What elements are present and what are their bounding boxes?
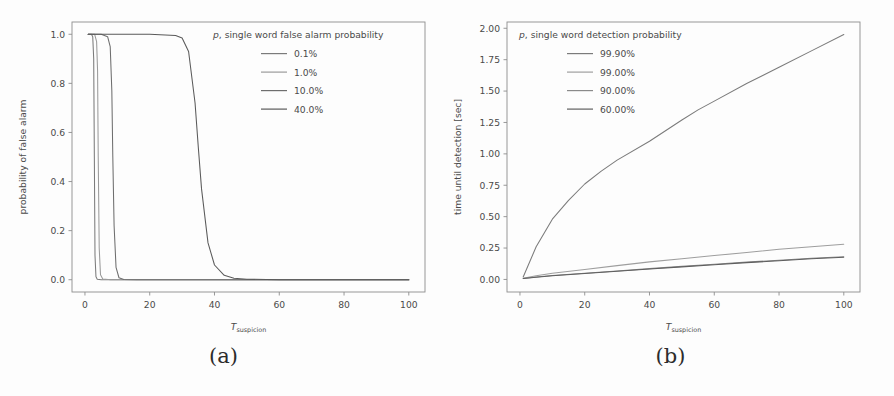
caption-a: (a) — [0, 344, 447, 368]
panel-b-chart: 0204060801000.000.250.500.751.001.251.50… — [447, 0, 894, 340]
legend-entry-label: 0.1% — [294, 48, 318, 59]
y-tick-label: 0.00 — [480, 274, 501, 285]
data-series-line — [523, 257, 844, 278]
x-tick-label: 100 — [835, 299, 853, 310]
y-tick-label: 2.00 — [480, 23, 501, 34]
y-tick-label: 0.2 — [50, 225, 65, 236]
data-series-line — [88, 34, 409, 279]
plot-frame — [507, 22, 860, 292]
panel-b-svg: 0204060801000.000.250.500.751.001.251.50… — [447, 0, 894, 340]
data-series-line — [523, 244, 844, 278]
legend-entry-label: 99.00% — [600, 67, 635, 78]
y-tick-label: 0.6 — [50, 127, 65, 138]
legend-title: p, single word detection probability — [518, 29, 682, 40]
panel-a-svg: 0204060801000.00.20.40.60.81.0probabilit… — [0, 0, 447, 340]
figure-container: 0204060801000.00.20.40.60.81.0probabilit… — [0, 0, 894, 396]
plot-frame — [72, 22, 425, 292]
x-tick-label: 60 — [273, 299, 285, 310]
x-axis-title: Tsuspicion — [666, 321, 701, 334]
x-tick-label: 80 — [773, 299, 785, 310]
x-tick-label: 60 — [708, 299, 720, 310]
x-tick-label: 40 — [644, 299, 656, 310]
data-series-line — [523, 35, 844, 277]
y-tick-label: 0.50 — [480, 211, 501, 222]
data-series-line — [88, 34, 409, 279]
x-tick-label: 40 — [209, 299, 221, 310]
x-tick-label: 20 — [144, 299, 156, 310]
y-axis-title: probability of false alarm — [17, 100, 28, 215]
x-axis-title: Tsuspicion — [231, 321, 266, 334]
legend-entry-label: 90.00% — [600, 85, 635, 96]
y-tick-label: 0.75 — [480, 180, 501, 191]
x-tick-label: 0 — [82, 299, 88, 310]
y-tick-label: 0.8 — [50, 78, 65, 89]
data-series-line — [88, 34, 409, 279]
y-axis-title: time until detection [sec] — [452, 99, 463, 215]
legend-entry-label: 40.0% — [294, 104, 323, 115]
legend-entry-label: 60.00% — [600, 104, 635, 115]
caption-b: (b) — [447, 344, 894, 368]
y-tick-label: 1.75 — [480, 54, 501, 65]
x-tick-label: 80 — [338, 299, 350, 310]
y-tick-label: 0.4 — [50, 176, 65, 187]
legend-entry-label: 99.90% — [600, 48, 635, 59]
y-tick-label: 1.25 — [480, 117, 501, 128]
y-tick-label: 1.00 — [480, 148, 501, 159]
x-tick-label: 0 — [517, 299, 523, 310]
y-tick-label: 1.0 — [50, 29, 65, 40]
x-tick-label: 100 — [400, 299, 418, 310]
legend-entry-label: 1.0% — [294, 67, 318, 78]
panel-a-chart: 0204060801000.00.20.40.60.81.0probabilit… — [0, 0, 447, 340]
y-tick-label: 1.50 — [480, 85, 501, 96]
y-tick-label: 0.25 — [480, 242, 501, 253]
x-tick-label: 20 — [579, 299, 591, 310]
y-tick-label: 0.0 — [50, 274, 65, 285]
data-series-line — [88, 34, 409, 279]
legend-entry-label: 10.0% — [294, 85, 323, 96]
legend-title: p, single word false alarm probability — [212, 29, 384, 40]
